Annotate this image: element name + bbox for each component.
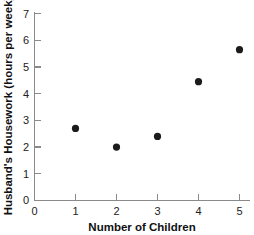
y-tick-label-4: 4 (23, 88, 29, 100)
y-axis-tick-labels: 7 6 5 4 3 2 1 0 (23, 8, 29, 207)
plot-area: 7 6 5 4 3 2 1 0 0 1 2 3 4 5 Number (0, 0, 254, 235)
x-tick-label-2: 2 (113, 205, 119, 217)
x-axis-tick-labels: 0 1 2 3 4 5 (31, 205, 242, 217)
y-axis-title: Husband's Housework (hours per week) (2, 0, 14, 215)
y-tick-label-3: 3 (23, 114, 29, 126)
x-tick-label-1: 1 (72, 205, 78, 217)
x-tick-label-0: 0 (31, 205, 37, 217)
data-point (154, 133, 161, 140)
x-axis-ticks (76, 194, 240, 201)
x-tick-label-4: 4 (195, 205, 201, 217)
y-axis-ticks (35, 14, 42, 174)
x-tick-label-3: 3 (154, 205, 160, 217)
y-tick-label-2: 2 (23, 141, 29, 153)
data-point (113, 144, 120, 151)
scatter-chart-figure: 7 6 5 4 3 2 1 0 0 1 2 3 4 5 Number (0, 0, 254, 235)
data-point-series (72, 46, 243, 151)
data-point (72, 125, 79, 132)
y-tick-label-6: 6 (23, 34, 29, 46)
y-tick-label-1: 1 (23, 168, 29, 180)
data-point (236, 46, 243, 53)
x-axis-title: Number of Children (88, 221, 195, 233)
y-tick-label-5: 5 (23, 61, 29, 73)
x-tick-label-5: 5 (236, 205, 242, 217)
y-tick-label-7: 7 (23, 8, 29, 20)
y-tick-label-0: 0 (23, 194, 29, 206)
data-point (195, 78, 202, 85)
